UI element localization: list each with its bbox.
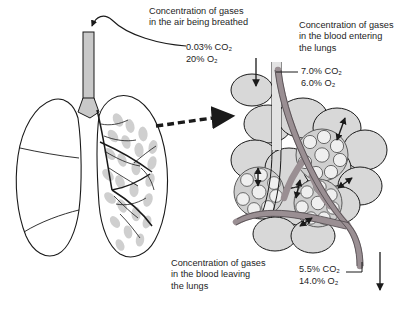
label-blood-entering: Concentration of gases in the blood ente… xyxy=(299,20,394,54)
trachea xyxy=(78,32,99,118)
value-blood-leaving: 5.5% CO₂ 14.0% O₂ xyxy=(299,264,340,287)
value-air-concentration: 0.03% CO₂ 20% O₂ xyxy=(186,42,232,65)
alveoli-closeup xyxy=(231,58,387,290)
value-blood-entering: 7.0% CO₂ 6.0% O₂ xyxy=(301,66,342,89)
magnification-arrow xyxy=(156,116,232,126)
label-air-concentration: Concentration of gases in the air being … xyxy=(149,6,248,29)
lung-diagram xyxy=(16,16,186,257)
alveolar-cluster xyxy=(234,167,284,217)
lung-left-outline xyxy=(16,99,81,256)
lung-right-with-bronchi xyxy=(97,96,168,257)
label-blood-leaving: Concentration of gases in the blood leav… xyxy=(171,258,266,292)
figure-canvas: Concentration of gases in the air being … xyxy=(0,0,403,310)
